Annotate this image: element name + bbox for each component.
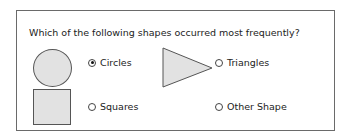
radio-unchecked-icon[interactable] [215,59,223,67]
option-squares[interactable]: Squares [88,101,138,112]
question-text: Which of the following shapes occurred m… [29,27,300,38]
option-label: Other Shape [227,101,287,112]
radio-checked-icon[interactable] [88,59,96,67]
option-circles[interactable]: Circles [88,57,132,68]
option-triangles[interactable]: Triangles [215,57,269,68]
radio-unchecked-icon[interactable] [88,103,96,111]
option-label: Squares [100,101,138,112]
triangle-shape-image [162,47,214,89]
radio-unchecked-icon[interactable] [215,103,223,111]
option-label: Circles [100,57,132,68]
square-shape-image [33,89,71,125]
option-label: Triangles [227,57,269,68]
option-other-shape[interactable]: Other Shape [215,101,287,112]
circle-shape-image [33,49,72,87]
